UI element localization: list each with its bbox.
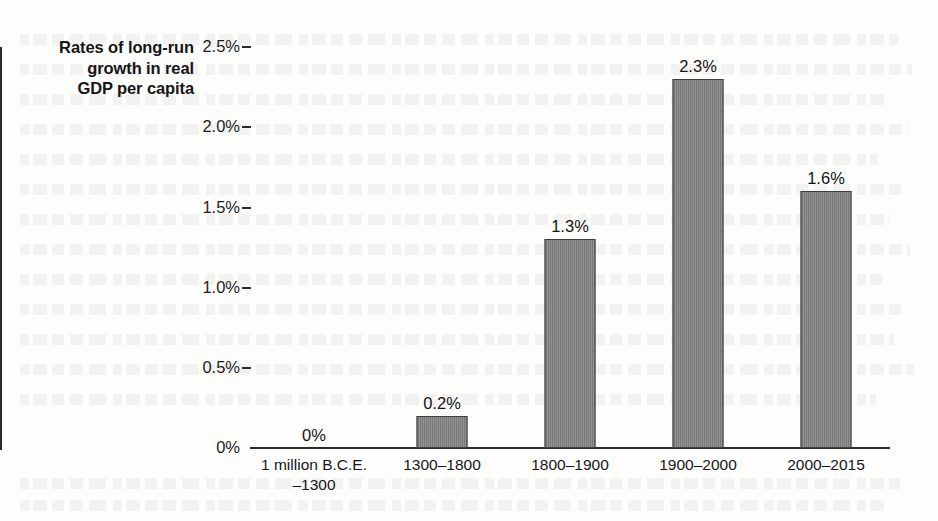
y-axis-title: Rates of long-run growth in real GDP per… — [8, 37, 194, 99]
bar-1300-1800[interactable] — [417, 416, 468, 448]
y-axis-title-line-2: growth in real — [87, 59, 194, 77]
bar-2000-2015[interactable] — [801, 191, 852, 448]
bar-group: 0% — [250, 47, 378, 448]
x-axis-category-label-line-1: 1 million B.C.E. — [261, 456, 367, 473]
bar-group: 1.6% — [762, 47, 890, 448]
y-axis-title-line-1: Rates of long-run — [59, 38, 194, 56]
bar-1900-2000[interactable] — [673, 79, 724, 448]
bar-value-label: 1.6% — [807, 169, 845, 188]
y-axis-tick-label: 0.5% — [202, 358, 240, 377]
bar-value-label: 0% — [302, 426, 326, 445]
bar-group: 0.2% — [378, 47, 506, 448]
y-axis-line — [0, 47, 2, 450]
bar-chart-figure: Rates of long-run growth in real GDP per… — [0, 0, 938, 521]
x-axis-category-label-line-2: –1300 — [230, 475, 398, 495]
y-axis-tick-label: 2.0% — [202, 117, 240, 136]
plot-area: 0% 0.2% 1.3% 2.3% 1.6% — [250, 47, 890, 448]
x-axis-category-label-line-1: 1800–1900 — [531, 456, 609, 473]
bar-value-label: 0.2% — [423, 394, 461, 413]
y-axis-title-line-3: GDP per capita — [77, 79, 194, 97]
y-axis-tick-label: 2.5% — [202, 37, 240, 56]
y-axis-tick-label: 1.5% — [202, 198, 240, 217]
x-axis-category-label-line-1: 1900–2000 — [659, 456, 737, 473]
bar-group: 2.3% — [634, 47, 762, 448]
bar-group: 1.3% — [506, 47, 634, 448]
bar-1800-1900[interactable] — [545, 239, 596, 448]
y-axis-tick-label: 1.0% — [202, 278, 240, 297]
bar-value-label: 2.3% — [679, 57, 717, 76]
x-axis-category-label: 2000–2015 — [742, 455, 910, 475]
x-axis-category-label-line-1: 1300–1800 — [403, 456, 481, 473]
bar-value-label: 1.3% — [551, 217, 589, 236]
x-axis-category-label-line-1: 2000–2015 — [787, 456, 865, 473]
